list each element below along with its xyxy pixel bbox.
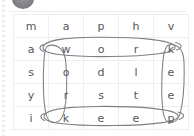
grid-cell[interactable]: p [154, 107, 189, 130]
letter-grid-table: m a p h v a w o r k s o d l [13, 14, 189, 130]
grid-cell[interactable]: k [49, 107, 84, 130]
grid-cell[interactable]: e [119, 107, 154, 130]
grid-cell[interactable]: h [119, 15, 154, 38]
grid-cell[interactable]: v [154, 15, 189, 38]
grid-cell[interactable]: a [14, 38, 49, 61]
grid-cell[interactable]: e [84, 107, 119, 130]
grid-cell[interactable]: s [84, 84, 119, 107]
grid-row: a w o r k [14, 38, 189, 61]
grid-cell[interactable]: w [49, 38, 84, 61]
grid-cell[interactable]: l [119, 61, 154, 84]
word-search-grid[interactable]: m a p h v a w o r k s o d l [13, 14, 183, 130]
grid-cell[interactable]: y [14, 84, 49, 107]
grid-row: i k e e p [14, 107, 189, 130]
grid-cell[interactable]: r [49, 84, 84, 107]
grid-row: m a p h v [14, 15, 189, 38]
page-seam-top [10, 11, 186, 12]
grid-row: s o d l e [14, 61, 189, 84]
grid-row: y r s t e [14, 84, 189, 107]
grid-cell[interactable]: i [14, 107, 49, 130]
grid-cell[interactable]: e [154, 84, 189, 107]
page-root: m a p h v a w o r k s o d l [0, 0, 194, 136]
grid-cell[interactable]: r [119, 38, 154, 61]
grid-cell[interactable]: t [119, 84, 154, 107]
grid-cell[interactable]: o [84, 38, 119, 61]
grid-cell[interactable]: m [14, 15, 49, 38]
grid-cell[interactable]: d [84, 61, 119, 84]
grid-cell[interactable]: o [49, 61, 84, 84]
grid-cell[interactable]: s [14, 61, 49, 84]
avatar [12, 0, 34, 9]
grid-cell[interactable]: a [49, 15, 84, 38]
grid-cell[interactable]: e [154, 61, 189, 84]
grid-cell[interactable]: p [84, 15, 119, 38]
grid-cell[interactable]: k [154, 38, 189, 61]
left-rail-decoration [2, 0, 5, 136]
